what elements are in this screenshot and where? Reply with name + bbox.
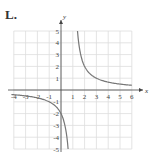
x-tick-label: -3 bbox=[23, 93, 29, 101]
x-tick-label: 3 bbox=[95, 93, 99, 101]
y-tick-label: -4 bbox=[53, 134, 59, 142]
y-tick-label: 5 bbox=[56, 28, 60, 36]
x-axis-arrow-icon bbox=[139, 88, 143, 92]
graph: xy-4-3-2-112345654321-1-2-3-4-5 bbox=[0, 0, 151, 161]
x-tick-label: 6 bbox=[130, 93, 134, 101]
x-tick-label: 1 bbox=[71, 93, 75, 101]
y-tick-label: 3 bbox=[56, 51, 60, 59]
curve-right-branch bbox=[78, 31, 132, 85]
y-tick-label: -5 bbox=[53, 146, 59, 154]
y-axis-label: y bbox=[62, 13, 67, 21]
x-axis-label: x bbox=[144, 87, 149, 95]
curve-left-branch bbox=[11, 95, 68, 150]
y-tick-label: 2 bbox=[56, 63, 60, 71]
x-tick-label: 4 bbox=[106, 93, 110, 101]
y-tick-label: 1 bbox=[56, 75, 60, 83]
x-tick-label: 5 bbox=[118, 93, 122, 101]
x-tick-label: -1 bbox=[46, 93, 52, 101]
x-tick-label: 2 bbox=[83, 93, 87, 101]
y-tick-label: -2 bbox=[53, 110, 59, 118]
y-tick-label: -3 bbox=[53, 122, 59, 130]
y-tick-label: 4 bbox=[56, 39, 60, 47]
